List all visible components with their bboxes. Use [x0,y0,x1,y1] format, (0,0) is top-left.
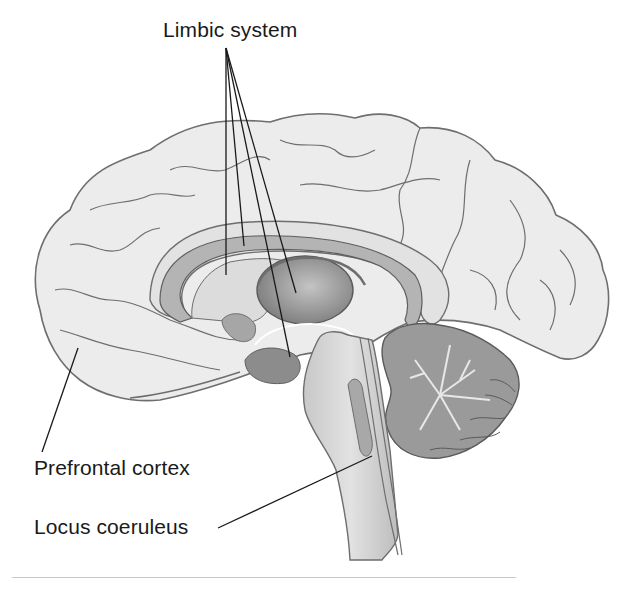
cerebellum [382,323,519,458]
brain-diagram [0,0,631,592]
figure-divider [12,577,516,578]
label-locus-coeruleus: Locus coeruleus [34,515,188,539]
label-prefrontal-cortex: Prefrontal cortex [34,456,190,480]
amygdala [245,348,300,384]
label-limbic-system: Limbic system [163,18,297,42]
